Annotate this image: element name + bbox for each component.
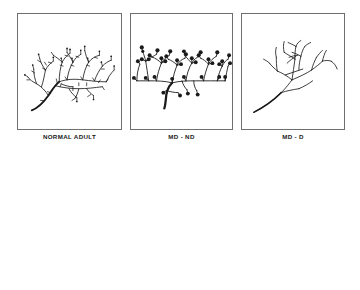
panel-dendrite-md-d (241, 13, 345, 130)
scientific-figure: NORMAL ADULT MD - ND MD - D (0, 0, 360, 290)
panel-dendrite-md-nd (130, 13, 233, 130)
panel-dendrite-normal-adult (17, 13, 122, 130)
dendrite-normal-adult-drawing (18, 14, 121, 129)
dendrite-md-nd-drawing (131, 14, 232, 129)
bottom-row-synapse-drawings (0, 150, 360, 290)
caption-normal-adult: NORMAL ADULT (17, 133, 122, 140)
caption-md-nd: MD - ND (130, 133, 233, 140)
top-row-dendrite-drawings: NORMAL ADULT MD - ND MD - D (0, 0, 360, 150)
caption-md-d: MD - D (241, 133, 345, 140)
dendrite-md-d-drawing (242, 14, 344, 129)
